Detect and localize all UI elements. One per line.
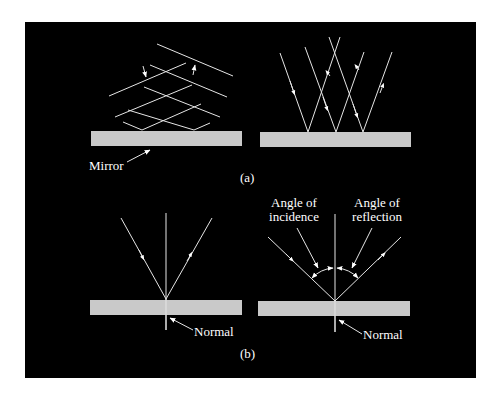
- mirror-a-left: [91, 131, 242, 146]
- wavefront-arrow-up-icon: [193, 65, 195, 75]
- angle-of-incidence-arc-icon: [312, 268, 333, 278]
- normal-pointer-arrow-icon: [170, 318, 193, 330]
- incidence-label-line2: incidence: [269, 209, 319, 224]
- wavefront-arrow-down-icon: [143, 66, 146, 77]
- angle-of-reflection-arc-icon: [337, 268, 358, 278]
- mirror-a-right: [260, 132, 411, 147]
- normal-label-right: Normal: [363, 327, 403, 342]
- mirror-label: Mirror: [89, 158, 124, 173]
- mirror-pointer-arrow-icon: [127, 150, 150, 162]
- caption-b: (b): [240, 346, 255, 361]
- normal-label-left: Normal: [194, 324, 234, 339]
- reflection-label-line2: reflection: [352, 209, 402, 224]
- mirror-b-right: [258, 301, 410, 316]
- reflection-diagram: Mirror (a) Normal: [0, 0, 499, 395]
- incidence-pointer-arrow-icon: [297, 228, 318, 268]
- multi-ray-diagram: [280, 37, 392, 132]
- reflection-label-line1: Angle of: [354, 195, 401, 210]
- normal-pointer-arrow-right-icon: [339, 320, 362, 334]
- reflection-pointer-arrow-icon: [352, 228, 372, 268]
- incidence-label-line1: Angle of: [271, 195, 318, 210]
- wavefront-diagram: [109, 44, 233, 130]
- caption-a: (a): [240, 170, 254, 185]
